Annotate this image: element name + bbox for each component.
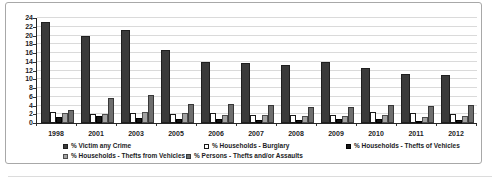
y-tick-label: 10 (12, 75, 33, 83)
figure-border-box: 0246810121416182022241998200120032005200… (5, 2, 482, 164)
y-axis-tick (33, 18, 36, 19)
gridline (37, 96, 477, 97)
legend-item: % Households - Burglary (204, 142, 289, 150)
legend-item: % Households - Thefts of Vehicles (346, 142, 460, 150)
x-tick-label: 2008 (276, 130, 316, 137)
x-axis-tick (316, 124, 317, 126)
x-tick-label: 2003 (116, 130, 156, 137)
gridline (37, 26, 477, 27)
x-axis-tick (396, 124, 397, 126)
gridline (37, 78, 477, 79)
x-axis-tick (156, 124, 157, 126)
legend-item: % Victim any Crime (63, 142, 131, 150)
legend-swatch-icon (346, 144, 351, 149)
plot-area (36, 18, 477, 124)
bar-series4-2003 (148, 95, 154, 123)
legend-swatch-icon (63, 154, 68, 159)
gridline (37, 87, 477, 88)
gridline (37, 70, 477, 71)
y-axis-tick (33, 53, 36, 54)
legend-label: % Persons - Thefts and/or Assaults (194, 152, 303, 160)
x-tick-label: 2011 (396, 130, 436, 137)
bar-series0-2011 (401, 74, 410, 123)
x-axis-tick (356, 124, 357, 126)
y-axis-tick (33, 106, 36, 107)
x-axis-tick (476, 124, 477, 126)
bar-series0-2009 (321, 62, 330, 123)
bar-series4-1998 (68, 110, 74, 123)
legend-swatch-icon (204, 144, 209, 149)
y-tick-label: 14 (12, 58, 33, 66)
y-axis-tick (33, 71, 36, 72)
y-axis-tick (33, 97, 36, 98)
bar-series4-2006 (228, 104, 234, 123)
legend-item: % Households - Thefts from Vehicles (63, 152, 185, 160)
x-tick-label: 2009 (316, 130, 356, 137)
bar-series4-2009 (348, 107, 354, 123)
bar-series0-2006 (201, 62, 210, 123)
gridline (37, 52, 477, 53)
y-axis-tick (33, 62, 36, 63)
bar-series4-2007 (268, 105, 274, 123)
bar-series4-2005 (188, 104, 194, 123)
bar-series0-1998 (41, 22, 50, 123)
y-tick-label: 16 (12, 49, 33, 57)
bar-series0-2010 (361, 68, 370, 123)
bar-series0-2008 (281, 65, 290, 123)
y-axis-tick (33, 114, 36, 115)
y-axis-tick (33, 79, 36, 80)
gridline (37, 105, 477, 106)
x-tick-label: 1998 (36, 130, 76, 137)
x-axis-tick (276, 124, 277, 126)
bar-series4-2011 (428, 106, 434, 123)
x-tick-label: 2001 (76, 130, 116, 137)
y-tick-label: 24 (12, 14, 33, 22)
bar-series0-2001 (81, 36, 90, 123)
legend-label: % Victim any Crime (71, 142, 131, 150)
x-axis-tick (236, 124, 237, 126)
x-axis-tick (36, 124, 37, 126)
gridline (37, 61, 477, 62)
bar-chart-figure: 0246810121416182022241998200120032005200… (0, 0, 495, 182)
x-tick-label: 2010 (356, 130, 396, 137)
separator-line (8, 176, 492, 177)
y-tick-label: 22 (12, 23, 33, 31)
bar-series0-2003 (121, 30, 130, 123)
bar-series4-2001 (108, 98, 114, 123)
y-tick-label: 4 (12, 102, 33, 110)
y-tick-label: 2 (12, 110, 33, 118)
legend-item: % Persons - Thefts and/or Assaults (186, 152, 303, 160)
x-axis-tick (196, 124, 197, 126)
y-tick-label: 6 (12, 93, 33, 101)
y-tick-label: 20 (12, 32, 33, 40)
y-axis-tick (33, 27, 36, 28)
bar-series0-2012 (441, 75, 450, 123)
bar-series4-2010 (388, 105, 394, 123)
legend-swatch-icon (186, 154, 191, 159)
y-tick-label: 18 (12, 40, 33, 48)
bar-series4-2008 (308, 107, 314, 123)
legend-label: % Households - Burglary (212, 142, 289, 150)
y-axis-tick (33, 36, 36, 37)
x-tick-label: 2007 (236, 130, 276, 137)
x-tick-label: 2005 (156, 130, 196, 137)
bar-series0-2007 (241, 63, 250, 123)
legend-label: % Households - Thefts of Vehicles (354, 142, 460, 150)
legend-label: % Households - Thefts from Vehicles (71, 152, 185, 160)
bar-series4-2012 (468, 105, 474, 123)
y-tick-label: 12 (12, 67, 33, 75)
y-tick-label: 0 (12, 119, 33, 127)
legend-swatch-icon (63, 144, 68, 149)
gridline (37, 35, 477, 36)
y-tick-label: 8 (12, 84, 33, 92)
gridline (37, 17, 477, 18)
x-axis-tick (436, 124, 437, 126)
x-tick-label: 2006 (196, 130, 236, 137)
x-axis-tick (76, 124, 77, 126)
bar-series0-2005 (161, 50, 170, 123)
gridline (37, 43, 477, 44)
y-axis-tick (33, 44, 36, 45)
x-tick-label: 2012 (436, 130, 476, 137)
x-axis-tick (116, 124, 117, 126)
y-axis-tick (33, 88, 36, 89)
